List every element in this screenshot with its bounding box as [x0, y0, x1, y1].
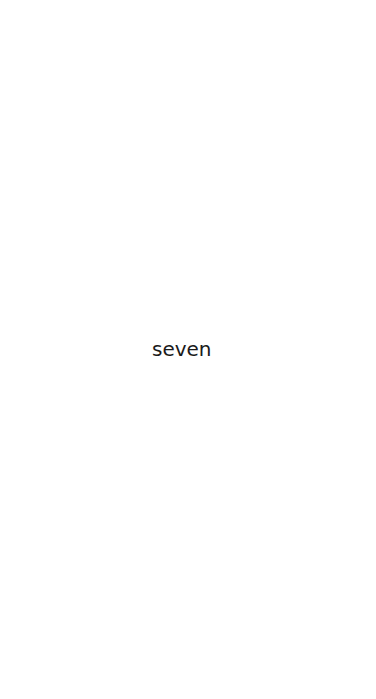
- flashcard-screen: seven: [0, 0, 376, 699]
- card-word: seven: [152, 336, 212, 362]
